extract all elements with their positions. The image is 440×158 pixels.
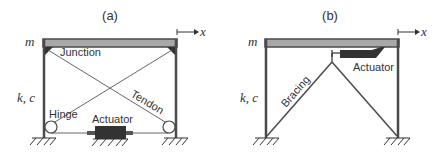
x-direction-arrow-b: x [398, 24, 427, 39]
bracing-left [267, 62, 332, 136]
hinge-left-a [45, 121, 57, 133]
mass-beam-b [265, 39, 399, 47]
stiffness-label-a: k, c [17, 90, 35, 105]
x-direction-arrow-a: x [177, 24, 206, 39]
ground-supports-a [30, 138, 188, 146]
diagram-canvas: (a) x m k, c Junction Tendon [0, 0, 440, 158]
actuator-label-a: Actuator [92, 113, 133, 125]
hinge-label: Hinge [49, 108, 78, 120]
hinge-right-a [163, 121, 175, 133]
panel-a-title: (a) [102, 8, 118, 23]
mass-label-a: m [25, 34, 34, 49]
ground-supports-b [253, 138, 410, 145]
x-label-a: x [199, 24, 206, 39]
mass-label-b: m [248, 34, 257, 49]
bracing-right [332, 62, 397, 136]
panel-b: (b) x m k, c Actuator Bracing [240, 8, 427, 145]
tendon-label: Tendon [129, 87, 166, 116]
x-label-b: x [420, 24, 427, 39]
panel-a: (a) x m k, c Junction Tendon [17, 8, 206, 146]
stiffness-label-b: k, c [240, 90, 258, 105]
panel-b-title: (b) [322, 8, 338, 23]
actuator-label-b: Actuator [353, 61, 394, 73]
junction-label: Junction [60, 46, 101, 58]
actuator-a [95, 126, 126, 139]
actuator-b [340, 47, 385, 58]
